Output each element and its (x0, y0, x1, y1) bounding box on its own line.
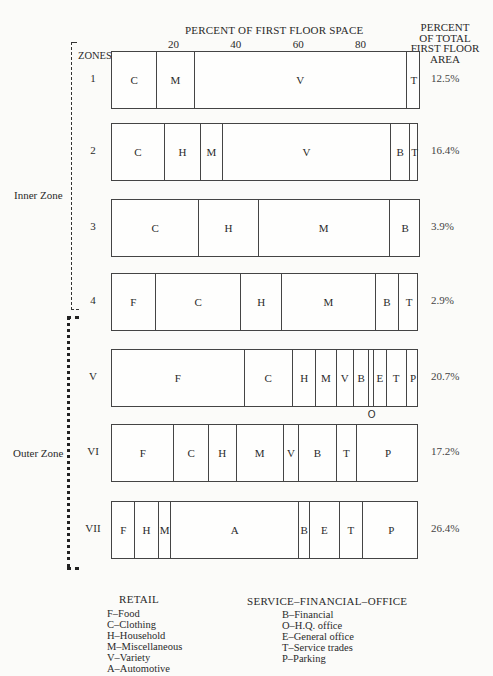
bar-segment: P (357, 425, 419, 481)
bar-segment: C (156, 274, 242, 330)
bar-segment: E (310, 502, 340, 558)
bar-segment: T (387, 350, 407, 406)
legend-retail-title: RETAIL (119, 593, 159, 605)
bar-segment: T (410, 124, 419, 180)
inner-zone-label: Inner Zone (14, 189, 63, 201)
zone-bar: CHMB (111, 199, 420, 257)
zone-bar: CMVT (111, 51, 420, 109)
zone-number: VII (78, 522, 108, 534)
legend-item: T–Service trades (282, 642, 354, 653)
bar-segment: B (391, 124, 410, 180)
bar-segment: V (223, 124, 391, 180)
bar-segment: C (112, 124, 165, 180)
bar-segment: H (209, 425, 237, 481)
zone-number: 4 (78, 294, 108, 306)
percent-total-value: 16.4% (431, 144, 459, 156)
bracket-cap (67, 567, 79, 570)
hq-office-callout: O (368, 409, 376, 420)
bar-segment: F (112, 350, 245, 406)
bar-segment: M (259, 200, 390, 256)
zone-number: VI (78, 445, 108, 457)
outer-zone-bracket (67, 316, 70, 568)
zone-bar: FCHMBT (111, 273, 418, 331)
bracket-cap (71, 309, 79, 310)
percent-total-value: 20.7% (431, 370, 459, 382)
bar-segment: B (376, 274, 399, 330)
bar-segment: B (390, 200, 421, 256)
bar-segment: T (407, 52, 421, 108)
bar-segment: B (299, 425, 336, 481)
bar-segment: M (282, 274, 376, 330)
zone-number: 1 (78, 72, 108, 84)
bar-segment: C (245, 350, 293, 406)
legend-item: V–Variety (107, 652, 182, 663)
legend-item: F–Food (107, 608, 182, 619)
legend-retail-list: F–FoodC–ClothingH–HouseholdM–Miscellaneo… (107, 608, 182, 674)
zone-bar: FCHMVBETP (111, 349, 418, 407)
bar-segment: T (337, 425, 357, 481)
legend-item: C–Clothing (107, 619, 182, 630)
bar-segment: F (112, 274, 156, 330)
zone-number: 3 (78, 220, 108, 232)
legend-item: B–Financial (282, 609, 354, 620)
tick-label: 60 (293, 38, 304, 50)
bar-segment: M (201, 124, 223, 180)
legend-service-title: SERVICE–FINANCIAL–OFFICE (247, 595, 407, 607)
zone-bar: FCHMVBTP (111, 424, 418, 482)
percent-total-value: 17.2% (431, 445, 459, 457)
zones-label: ZONES (78, 50, 112, 61)
bar-segment: H (135, 502, 158, 558)
bar-segment: T (399, 274, 419, 330)
legend-item: O–H.Q. office (282, 620, 354, 631)
percent-total-value: 12.5% (431, 72, 459, 84)
zone-number: V (78, 370, 108, 382)
bar-segment: T (340, 502, 363, 558)
bar-segment: V (337, 350, 354, 406)
percent-total-value: 3.9% (431, 220, 454, 232)
bar-segment: H (165, 124, 201, 180)
percent-total-value: 2.9% (431, 294, 454, 306)
zone-number: 2 (78, 144, 108, 156)
legend-item: H–Household (107, 630, 182, 641)
tick-label: 40 (230, 38, 241, 50)
bar-segment: F (112, 425, 174, 481)
zone-bar: FHMABETP (111, 501, 418, 559)
bar-segment: P (407, 350, 419, 406)
bar-segment: V (284, 425, 300, 481)
bar-segment: B (299, 502, 310, 558)
tick-label: 20 (168, 38, 179, 50)
tick-label: 80 (355, 38, 366, 50)
bar-segment: C (112, 200, 199, 256)
bar-segment: H (199, 200, 258, 256)
axis-title: PERCENT OF FIRST FLOOR SPACE (185, 24, 363, 36)
bar-segment: F (112, 502, 135, 558)
title-line: PERCENT (400, 22, 490, 33)
inner-zone-bracket (71, 42, 72, 310)
legend-item: M–Miscellaneous (107, 641, 182, 652)
outer-zone-label: Outer Zone (13, 447, 63, 459)
bar-segment: H (293, 350, 316, 406)
percent-total-value: 26.4% (431, 522, 459, 534)
bar-segment: H (241, 274, 282, 330)
legend-item: E–General office (282, 631, 354, 642)
bracket-cap (67, 316, 79, 319)
bar-segment: E (374, 350, 386, 406)
zone-bar: CHMVBT (111, 123, 418, 181)
bar-segment: M (157, 52, 194, 108)
bar-segment: B (354, 350, 370, 406)
bar-segment: C (174, 425, 208, 481)
bar-segment: V (195, 52, 407, 108)
bar-segment: P (363, 502, 419, 558)
legend-service-list: B–FinancialO–H.Q. officeE–General office… (282, 609, 354, 664)
bar-segment: M (316, 350, 336, 406)
bar-segment: A (171, 502, 299, 558)
bar-segment: M (159, 502, 171, 558)
legend-item: P–Parking (282, 653, 354, 664)
bar-segment: C (112, 52, 157, 108)
bracket-cap (71, 42, 77, 43)
bar-segment: M (237, 425, 284, 481)
legend-item: A–Automotive (107, 663, 182, 674)
